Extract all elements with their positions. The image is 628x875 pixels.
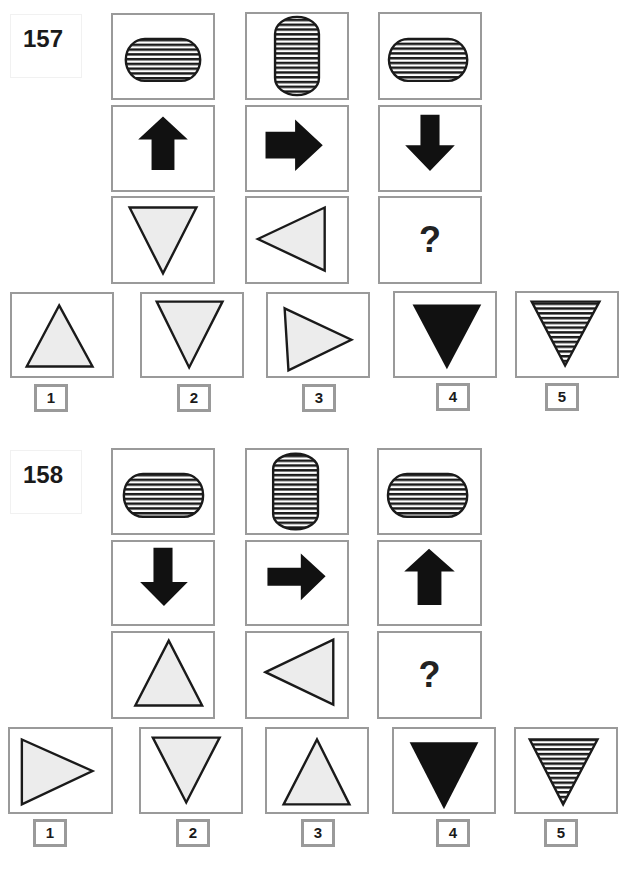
grid-cell-r3c2 <box>245 196 349 284</box>
grid-cell-r1c3 <box>378 12 482 100</box>
grid-cell-r2c2 <box>245 105 349 192</box>
grid-cell-r1c2 <box>245 12 349 100</box>
option-label-1[interactable]: 1 <box>33 819 67 847</box>
horizontal-striped-capsule-icon <box>379 450 480 533</box>
option-5[interactable] <box>514 727 618 814</box>
arrow-up-icon <box>113 107 213 190</box>
vertical-striped-capsule-icon <box>247 450 347 533</box>
option-2[interactable] <box>140 292 244 378</box>
puzzle-number: 157 <box>10 14 82 78</box>
grid-cell-r1c3 <box>377 448 482 535</box>
option-label-5[interactable]: 5 <box>545 383 579 411</box>
arrow-down-icon <box>380 107 480 190</box>
grid-cell-r3c1 <box>111 631 215 719</box>
question-mark: ? <box>379 633 480 717</box>
option-label-4[interactable]: 4 <box>436 383 470 411</box>
option-5[interactable] <box>515 291 619 378</box>
triangle-down-striped-icon <box>517 293 617 376</box>
grid-cell-r1c1 <box>111 13 215 100</box>
option-label-2[interactable]: 2 <box>177 384 211 412</box>
arrow-down-icon <box>113 542 213 624</box>
horizontal-striped-capsule-icon <box>113 15 213 98</box>
option-label-5[interactable]: 5 <box>544 819 578 847</box>
triangle-down-black-icon <box>394 729 494 812</box>
option-1[interactable] <box>10 292 114 378</box>
grid-cell-r1c2 <box>245 448 349 535</box>
option-label-3[interactable]: 3 <box>302 384 336 412</box>
triangle-up-light-icon <box>12 294 112 376</box>
question-mark: ? <box>380 198 480 282</box>
triangle-left-light-icon <box>247 633 347 717</box>
triangle-down-black-icon <box>395 293 495 376</box>
option-4[interactable] <box>393 291 497 378</box>
triangle-up-light-icon <box>267 729 367 812</box>
option-3[interactable] <box>265 727 369 814</box>
grid-cell-r3c3-missing: ? <box>377 631 482 719</box>
option-label-2[interactable]: 2 <box>176 819 210 847</box>
puzzle-number: 158 <box>10 450 82 514</box>
grid-cell-r3c1 <box>111 196 215 284</box>
option-2[interactable] <box>139 727 243 814</box>
arrow-right-icon <box>247 107 347 190</box>
option-label-3[interactable]: 3 <box>301 819 335 847</box>
triangle-right-light-icon <box>10 729 111 812</box>
horizontal-striped-capsule-icon <box>113 450 213 533</box>
grid-cell-r2c3 <box>378 105 482 192</box>
triangle-right-light-icon <box>268 294 368 376</box>
triangle-down-light-icon <box>142 294 242 376</box>
grid-cell-r2c2 <box>245 540 349 626</box>
option-1[interactable] <box>8 727 113 814</box>
grid-cell-r2c1 <box>111 540 215 626</box>
grid-cell-r3c2 <box>245 631 349 719</box>
option-label-1[interactable]: 1 <box>34 384 68 412</box>
grid-cell-r2c1 <box>111 105 215 192</box>
triangle-down-light-icon <box>141 729 241 812</box>
grid-cell-r2c3 <box>377 540 482 626</box>
triangle-down-striped-icon <box>516 729 616 812</box>
grid-cell-r3c3-missing: ? <box>378 196 482 284</box>
vertical-striped-capsule-icon <box>247 14 347 98</box>
arrow-right-icon <box>247 542 347 624</box>
triangle-down-light-icon <box>113 198 213 282</box>
arrow-up-icon <box>379 542 480 624</box>
triangle-left-light-icon <box>247 198 347 282</box>
option-4[interactable] <box>392 727 496 814</box>
triangle-up-light-icon <box>113 633 213 717</box>
grid-cell-r1c1 <box>111 448 215 535</box>
option-3[interactable] <box>266 292 370 378</box>
option-label-4[interactable]: 4 <box>436 819 470 847</box>
horizontal-striped-capsule-icon <box>380 14 480 98</box>
